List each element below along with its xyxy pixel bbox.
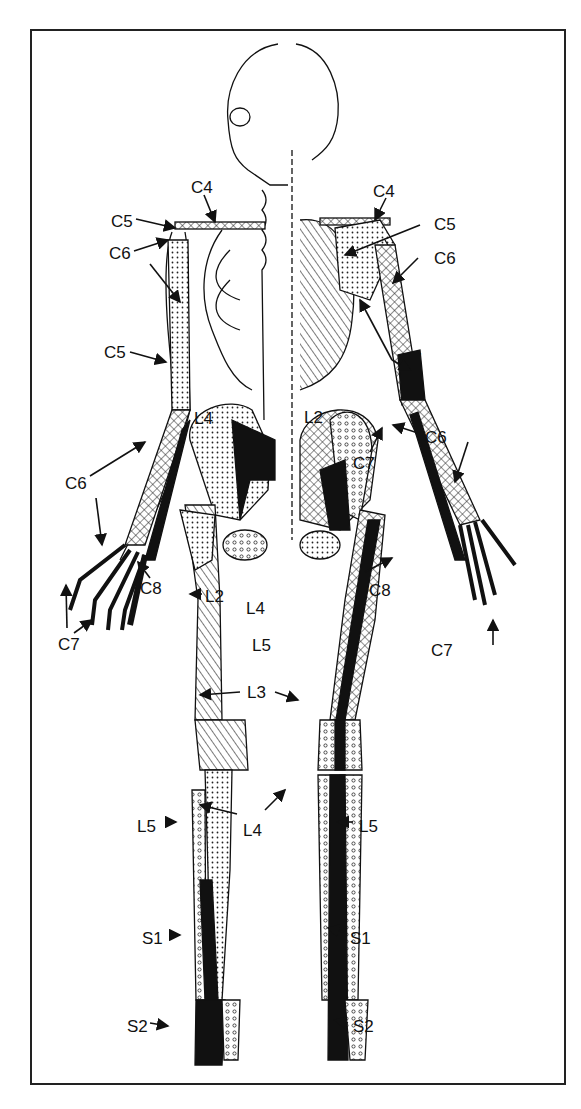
label-s1-left: S1 bbox=[142, 930, 163, 947]
label-s2-left: S2 bbox=[127, 1018, 148, 1035]
label-c7-left-hand: C7 bbox=[58, 636, 80, 653]
label-l2-upper-right: L2 bbox=[304, 409, 323, 426]
label-l2-lower-left: L2 bbox=[205, 588, 224, 605]
label-l4-upper-left: L4 bbox=[194, 410, 213, 427]
label-c6-right-forearm: C6 bbox=[425, 429, 447, 446]
label-s2-right: S2 bbox=[353, 1018, 374, 1035]
label-c6-right-shoulder: C6 bbox=[434, 250, 456, 267]
label-c5-right-shoulder: C5 bbox=[434, 216, 456, 233]
label-l3: L3 bbox=[247, 684, 266, 701]
label-c5-left-arm: C5 bbox=[104, 344, 126, 361]
label-c8-left: C8 bbox=[140, 580, 162, 597]
label-c4-right: C4 bbox=[373, 183, 395, 200]
label-c7-right-arm: C7 bbox=[400, 351, 422, 368]
label-l4-lower: L4 bbox=[246, 600, 265, 617]
label-c7-right-hand: C7 bbox=[431, 642, 453, 659]
label-l5-left-leg: L5 bbox=[137, 818, 156, 835]
label-l5-pelvis: L5 bbox=[252, 637, 271, 654]
label-l5-right-leg: L5 bbox=[359, 818, 378, 835]
label-c4-left: C4 bbox=[191, 179, 213, 196]
label-c6-left-shoulder: C6 bbox=[109, 245, 131, 262]
label-l4-leg: L4 bbox=[243, 822, 262, 839]
label-c8-right: C8 bbox=[369, 582, 391, 599]
label-c5-left-shoulder: C5 bbox=[111, 213, 133, 230]
label-c6-left-forearm: C6 bbox=[65, 475, 87, 492]
skeleton-illustration bbox=[0, 0, 581, 1109]
label-c7-right-wrist: C7 bbox=[353, 455, 375, 472]
label-s1-right: S1 bbox=[350, 930, 371, 947]
